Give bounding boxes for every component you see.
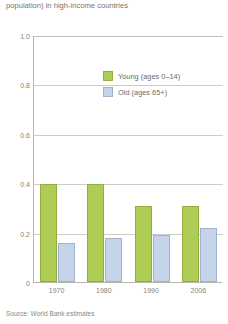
caption-line-2: population) in high-income countries: [6, 0, 222, 11]
bar: [87, 184, 104, 282]
legend-swatch-young: [103, 71, 113, 81]
bar: [58, 243, 75, 282]
source-note: Source: World Bank estimates: [6, 310, 95, 317]
y-tick-label: 0.6: [20, 131, 30, 138]
x-tick-label: 2006: [175, 287, 222, 294]
bar: [135, 206, 152, 282]
x-axis-labels: 1970198019902006: [33, 287, 222, 294]
y-tick-label: 0.4: [20, 181, 30, 188]
x-tick-label: 1970: [33, 287, 80, 294]
bar: [40, 184, 57, 282]
legend-label: Old (ages 65+): [118, 88, 167, 97]
legend-item: Old (ages 65+): [103, 84, 180, 100]
bar-group: [34, 36, 81, 282]
x-tick-label: 1990: [128, 287, 175, 294]
bar: [182, 206, 199, 282]
bar: [105, 238, 122, 282]
chart-caption: dependency ratio (ratio of dependent to …: [6, 0, 222, 11]
y-tick-label: 0.8: [20, 82, 30, 89]
legend-swatch-old: [103, 87, 113, 97]
bar: [153, 235, 170, 282]
x-tick-label: 1980: [80, 287, 127, 294]
bar: [200, 228, 217, 282]
legend-item: Young (ages 0–14): [103, 68, 180, 84]
legend-label: Young (ages 0–14): [118, 72, 180, 81]
y-tick-label: 0.2: [20, 230, 30, 237]
legend: Young (ages 0–14)Old (ages 65+): [103, 68, 180, 100]
bar-group: [176, 36, 223, 282]
y-tick-label: 1.0: [20, 33, 30, 40]
y-tick-label: 0: [26, 280, 30, 287]
